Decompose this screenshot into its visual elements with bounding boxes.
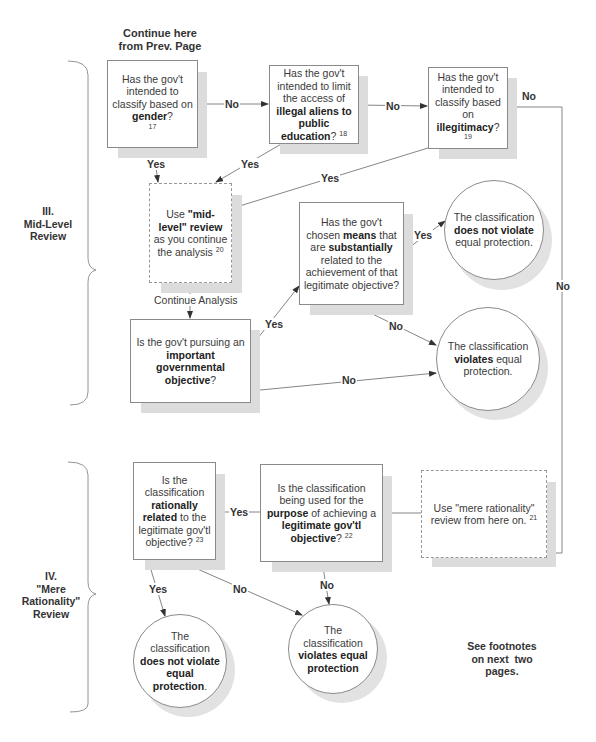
- edge-label-continue-analysis: Continue Analysis: [154, 294, 237, 306]
- section-title-2: Rationality": [16, 595, 86, 608]
- outcome-text: .: [204, 680, 207, 692]
- node-bold-text: substantially: [328, 241, 392, 253]
- continue-line-1: Continue here: [110, 27, 210, 40]
- footer-note: See footnotes on next two pages.: [464, 640, 540, 678]
- node-text: related to the achievement of that legit…: [304, 254, 399, 291]
- outcome-text: equal protection.: [455, 236, 533, 248]
- outcome-rat-not-violate: The classification does not violate equa…: [133, 614, 227, 708]
- node-text: ?: [336, 532, 342, 544]
- footer-line-2: on next two: [464, 653, 540, 666]
- edge-label-no-aliens: No: [385, 100, 401, 112]
- edge-label-yes-illegitimacy: Yes: [320, 172, 340, 184]
- node-gender: Has the gov't intended to classify based…: [107, 60, 198, 148]
- edge-label-yes-purpose: Yes: [229, 506, 249, 518]
- footer-line-3: pages.: [464, 665, 540, 678]
- node-illegal-aliens: Has the gov't intended to limit the acce…: [269, 65, 359, 144]
- section-mere-rationality-review: IV. "Mere Rationality" Review: [16, 570, 86, 620]
- footnote-ref: 23: [196, 536, 204, 543]
- node-bold-text: gender: [132, 110, 167, 122]
- section-subtitle: Review: [16, 608, 86, 621]
- outcome-text: The classification: [448, 340, 529, 352]
- node-text: ?: [494, 121, 500, 133]
- outcome-text: The classification: [454, 211, 535, 223]
- node-bold-text: purpose: [267, 507, 308, 519]
- outcome-mid-violates: The classification violates equal protec…: [436, 307, 540, 411]
- footnote-ref: 22: [345, 532, 353, 539]
- node-text: Has the gov't intended to classify based…: [112, 73, 193, 110]
- node-text: Is the classification: [145, 474, 205, 499]
- node-mid-level-review: Use "mid-level" review as you continue t…: [149, 183, 232, 283]
- outcome-bold-text: does not violate: [454, 224, 534, 236]
- node-text: ?: [210, 374, 216, 386]
- outcome-bold-text: violates: [454, 353, 493, 365]
- edge-label-yes-substantially: Yes: [413, 229, 433, 241]
- continue-header: Continue here from Prev. Page: [110, 27, 210, 53]
- node-mere-rationality-review: Use "mere rationality" review from here …: [421, 470, 547, 558]
- edge-label-no-substantially: No: [388, 320, 404, 332]
- continue-line-2: from Prev. Page: [110, 40, 210, 53]
- section-title: "Mere: [16, 583, 86, 596]
- edge-label-no-gender: No: [224, 98, 240, 110]
- section-number: IV.: [16, 570, 86, 583]
- node-bold-text: means: [343, 229, 376, 241]
- node-legitimate-purpose: Is the classification being used for the…: [260, 464, 383, 562]
- footer-line-1: See footnotes: [464, 640, 540, 653]
- edge-label-yes-rationally: Yes: [148, 583, 168, 595]
- outcome-bold-text: does not violate equal protection: [140, 655, 220, 692]
- edge-label-yes-important: Yes: [264, 318, 284, 330]
- outcome-rat-violates: The classification violates equal protec…: [288, 604, 378, 694]
- node-text: Use: [166, 208, 188, 220]
- node-illegitimacy: Has the gov't intended to classify based…: [428, 67, 508, 149]
- node-bold-text: illegitimacy: [436, 121, 493, 133]
- node-important-objective: Is the gov't pursuing an important gover…: [130, 319, 251, 403]
- edge-label-no-rationally: No: [232, 583, 248, 595]
- outcome-text: The classification: [150, 630, 210, 655]
- node-substantially-related: Has the gov't chosen means that are subs…: [299, 202, 404, 305]
- node-text: Is the classification being used for the: [277, 482, 365, 507]
- outcome-text: The classification: [303, 624, 363, 649]
- node-text: Is the gov't pursuing an: [136, 336, 244, 348]
- outcome-bold-text: violates equal protection: [298, 649, 367, 674]
- footnote-ref: 20: [216, 246, 224, 253]
- edge-label-no-important: No: [341, 374, 357, 386]
- node-text: Use "mere rationality" review from here …: [431, 502, 535, 527]
- footnote-ref: 21: [529, 514, 537, 521]
- node-rationally-related: Is the classification rationally related…: [133, 462, 216, 560]
- edge-label-no-right: No: [555, 280, 571, 292]
- edge-label-yes-gender: Yes: [146, 158, 166, 170]
- section-mid-level-review: III. Mid-Level Review: [20, 205, 76, 243]
- node-text: of achieving a: [308, 507, 376, 519]
- edge-label-no-illegitimacy: No: [521, 90, 537, 102]
- outcome-mid-not-violate: The classification does not violate equa…: [444, 180, 544, 280]
- footnote-ref: 17: [149, 123, 157, 130]
- section-subtitle: Review: [20, 230, 76, 243]
- section-title: Mid-Level: [20, 218, 76, 231]
- edge-label-yes-aliens: Yes: [240, 158, 260, 170]
- node-text: Has the gov't intended to limit the acce…: [277, 67, 351, 104]
- node-text: Has the gov't intended to classify based…: [435, 71, 501, 121]
- section-number: III.: [20, 205, 76, 218]
- node-text: ?: [167, 110, 173, 122]
- node-text: ?: [331, 130, 337, 142]
- footnote-ref: 18: [339, 130, 347, 137]
- footnote-ref: 19: [464, 133, 472, 140]
- edge-label-no-purpose: No: [319, 579, 335, 591]
